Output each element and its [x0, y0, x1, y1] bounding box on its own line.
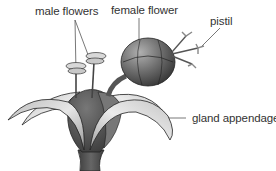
flower-illustration — [0, 0, 276, 171]
pistil — [172, 32, 204, 68]
label-male-flowers: male flowers — [35, 6, 98, 18]
stem — [78, 150, 104, 171]
male-anther-1b — [68, 68, 86, 74]
male-anther-2b — [86, 58, 104, 64]
label-pistil: pistil — [210, 16, 232, 28]
label-gland-appendage: gland appendage — [192, 113, 276, 125]
leader-pistil — [201, 28, 220, 47]
flower-diagram: male flowers female flower pistil gland … — [0, 0, 276, 171]
label-female-flower: female flower — [111, 5, 178, 17]
female-flower — [121, 38, 175, 86]
female-stalk — [108, 76, 126, 96]
